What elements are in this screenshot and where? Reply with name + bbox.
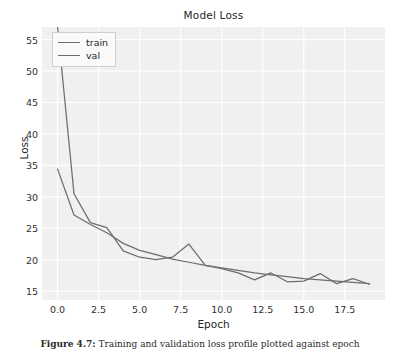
y-axis-label: Loss (18, 118, 30, 178)
plot-area: train val (42, 27, 385, 300)
legend-line-icon-train (58, 42, 80, 43)
x-tick-label: 17.5 (320, 304, 370, 315)
y-tick-label: 45 (8, 97, 38, 108)
figure-container: Model Loss train val 152025303540455055 … (0, 0, 400, 349)
legend[interactable]: train val (52, 32, 116, 67)
legend-entry-val[interactable]: val (58, 49, 108, 62)
legend-holder: train val (42, 27, 385, 300)
legend-label-train: train (86, 38, 108, 48)
y-tick-label: 55 (8, 34, 38, 45)
y-tick-label: 20 (8, 254, 38, 265)
x-axis-label: Epoch (42, 318, 385, 330)
caption-number: Figure 4.7: (40, 339, 95, 349)
y-tick-label: 15 (8, 286, 38, 297)
y-tick-label: 25 (8, 223, 38, 234)
y-tick-label: 50 (8, 66, 38, 77)
chart-title: Model Loss (42, 9, 385, 21)
y-tick-label: 30 (8, 191, 38, 202)
legend-entry-train[interactable]: train (58, 36, 108, 49)
legend-label-val: val (86, 51, 100, 61)
x-axis-ticks: 0.02.55.07.510.012.515.017.5 (42, 304, 385, 318)
caption-body: Training and validation loss profile plo… (98, 339, 359, 349)
legend-line-icon-val (58, 55, 80, 56)
figure-caption: Figure 4.7: Training and validation loss… (24, 338, 376, 349)
